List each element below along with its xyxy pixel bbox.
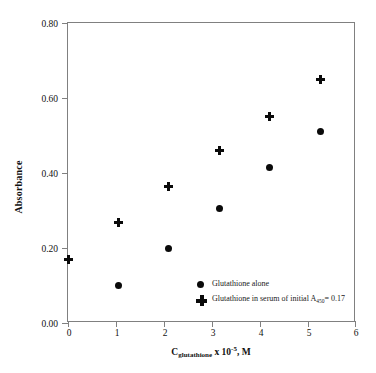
x-axis-units: , M xyxy=(237,347,251,357)
data-point-circle-0 xyxy=(115,282,122,289)
data-point-circle-2 xyxy=(216,205,223,212)
x-axis-subscript: glutathione xyxy=(178,351,212,359)
x-tick-label-3: 3 xyxy=(203,328,223,338)
legend-label-glutathione-alone: Glutathione alone xyxy=(212,279,269,289)
y-tick-3: 0.60 xyxy=(62,98,68,99)
x-tick-5: 5 xyxy=(308,321,309,327)
x-tick-3: 3 xyxy=(212,321,213,327)
x-tick-2: 2 xyxy=(164,321,165,327)
x-tick-0: 0 xyxy=(68,321,69,327)
data-point-plus-5 xyxy=(316,75,325,84)
data-point-circle-3 xyxy=(266,164,273,171)
data-point-plus-2 xyxy=(164,182,173,191)
legend-item-glutathione-alone: Glutathione alone xyxy=(196,276,345,292)
legend-label-serum-suffix: = 0.17 xyxy=(324,294,345,303)
x-tick-label-6: 6 xyxy=(346,328,366,338)
x-axis-multiplier: x 10 xyxy=(212,347,231,357)
x-tick-6: 6 xyxy=(355,321,356,327)
plus-marker-icon xyxy=(196,293,212,307)
data-point-plus-4 xyxy=(265,112,274,121)
data-point-circle-1 xyxy=(165,245,172,252)
y-tick-label-1: 0.20 xyxy=(41,241,58,257)
y-tick-1: 0.20 xyxy=(62,248,68,249)
x-tick-1: 1 xyxy=(116,321,117,327)
y-tick-label-2: 0.40 xyxy=(41,166,58,182)
y-tick-label-4: 0.80 xyxy=(41,16,58,32)
x-tick-label-5: 5 xyxy=(299,328,319,338)
data-point-circle-4 xyxy=(317,128,324,135)
legend-label-glutathione-serum: Glutathione in serum of initial A450= 0.… xyxy=(212,294,345,306)
x-tick-label-1: 1 xyxy=(107,328,127,338)
circle-marker-icon xyxy=(196,277,212,291)
y-tick-4: 0.80 xyxy=(62,23,68,24)
legend-label-serum-prefix: Glutathione in serum of initial A xyxy=(212,294,316,303)
x-tick-4: 4 xyxy=(260,321,261,327)
data-point-plus-0 xyxy=(64,255,73,264)
y-tick-label-0: 0.00 xyxy=(41,316,58,332)
x-axis-title: Cglutathione x 10-5, M xyxy=(67,345,355,359)
y-tick-label-3: 0.60 xyxy=(41,91,58,107)
y-tick-2: 0.40 xyxy=(62,173,68,174)
legend-item-glutathione-serum: Glutathione in serum of initial A450= 0.… xyxy=(196,292,345,308)
x-tick-label-0: 0 xyxy=(59,328,79,338)
y-axis-title: Absorbance xyxy=(13,160,24,213)
legend: Glutathione alone Glutathione in serum o… xyxy=(196,276,345,308)
x-tick-label-2: 2 xyxy=(155,328,175,338)
scatter-chart-figure: Absorbance 0.00 0.20 0.40 0.60 0.80 0 1 … xyxy=(0,0,376,373)
x-tick-label-4: 4 xyxy=(251,328,271,338)
data-point-plus-3 xyxy=(215,146,224,155)
data-point-plus-1 xyxy=(114,218,123,227)
